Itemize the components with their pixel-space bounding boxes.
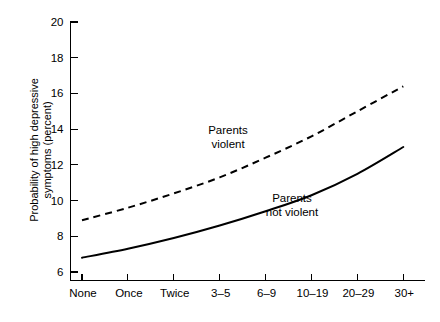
y-tick-label: 14 xyxy=(51,123,64,135)
x-tick-label: Once xyxy=(115,287,143,299)
x-tick-label: 30+ xyxy=(395,287,415,299)
x-tick-label: 6–9 xyxy=(257,287,276,299)
x-tick-label: Twice xyxy=(160,287,189,299)
data-series-group xyxy=(82,86,403,257)
y-axis-ticks: 68101214161820 xyxy=(51,16,78,278)
annot-parents-not-violent-line2: not violent xyxy=(266,206,319,218)
y-tick-label: 10 xyxy=(51,195,64,207)
y-tick-label: 20 xyxy=(51,16,64,28)
x-tick-label: 3–5 xyxy=(211,287,230,299)
annot-parents-violent-line1: Parents xyxy=(208,124,248,136)
y-tick-label: 18 xyxy=(51,52,64,64)
annot-parents-not-violent-line1: Parents xyxy=(272,192,312,204)
y-tick-label: 16 xyxy=(51,87,64,99)
series-line-parents-not-violent xyxy=(82,147,403,258)
x-tick-label: None xyxy=(69,287,97,299)
x-tick-label: 10–19 xyxy=(297,287,329,299)
x-axis-ticks: NoneOnceTwice3–56–910–1920–2930+ xyxy=(69,274,414,299)
line-chart-canvas: Probability of high depressive symptoms … xyxy=(0,0,440,322)
axis-spines xyxy=(71,21,426,281)
y-axis-title-line1: Probability of high depressive xyxy=(28,78,40,222)
y-axis-title-line2: symptoms (percent) xyxy=(41,101,53,198)
chart-figure: Probability of high depressive symptoms … xyxy=(0,0,440,322)
series-line-parents-violent xyxy=(82,86,403,220)
y-tick-label: 6 xyxy=(57,266,63,278)
y-tick-label: 8 xyxy=(57,230,63,242)
y-tick-label: 12 xyxy=(51,159,64,171)
annotations-group: ParentsviolentParentsnot violent xyxy=(208,124,319,218)
annot-parents-violent-line2: violent xyxy=(211,138,245,150)
y-axis-title: Probability of high depressive symptoms … xyxy=(28,78,53,222)
x-tick-label: 20–29 xyxy=(342,287,374,299)
